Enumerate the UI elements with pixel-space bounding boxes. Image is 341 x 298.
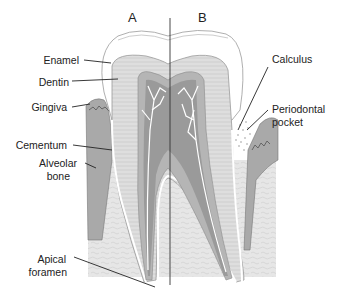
label-apical-foramen-line2: foramen — [28, 266, 67, 278]
label-periodontal-pocket-line1: Periodontal — [272, 103, 325, 115]
label-gingiva: Gingiva — [31, 101, 67, 113]
label-dentin: Dentin — [39, 76, 69, 88]
calculus-deposit — [235, 121, 251, 151]
label-apical-foramen-line1: Apical — [37, 253, 66, 265]
label-alveolar-bone-line1: Alveolar — [39, 157, 77, 169]
label-periodontal-pocket-line2: pocket — [272, 116, 303, 128]
label-cementum: Cementum — [16, 139, 67, 151]
section-label-a: A — [128, 10, 137, 25]
section-label-b: B — [198, 10, 207, 25]
label-alveolar-bone-line2: bone — [47, 170, 70, 182]
label-enamel: Enamel — [43, 54, 79, 66]
label-calculus: Calculus — [272, 53, 312, 65]
